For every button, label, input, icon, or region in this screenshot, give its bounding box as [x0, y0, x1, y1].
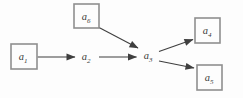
- node-a5-sub: 5: [210, 78, 214, 86]
- node-a2-sub: 2: [87, 57, 91, 65]
- node-a6-sub: 6: [87, 17, 91, 25]
- diagram-canvas: a1 a6 a2 a3 a4 a5: [0, 0, 243, 98]
- edge-a3-a4: [159, 40, 193, 52]
- edge-a3-a5: [159, 61, 194, 68]
- node-a1-sub: 1: [24, 57, 28, 65]
- directed-graph-diagram: a1 a6 a2 a3 a4 a5: [0, 0, 243, 98]
- node-a3-sub: 3: [148, 56, 153, 64]
- node-label-a3: a3: [144, 50, 153, 64]
- edge-a6-a3: [99, 28, 138, 49]
- node-label-a2: a2: [82, 51, 91, 65]
- node-a4-sub: 4: [208, 31, 212, 39]
